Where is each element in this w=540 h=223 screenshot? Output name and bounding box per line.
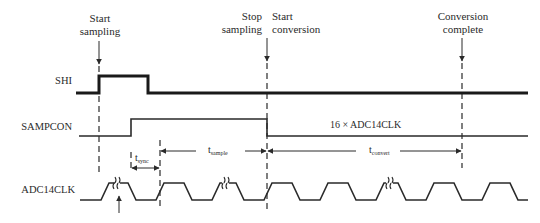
adc14clk-waveform <box>80 183 115 200</box>
t-sync-label: tsync <box>135 152 149 164</box>
stop-sampling-line1: Stop <box>242 10 263 22</box>
start-sampling-line2: sampling <box>80 25 121 37</box>
stop-sampling-line2: sampling <box>222 23 263 35</box>
conversion-complete-line2: complete <box>443 23 483 35</box>
t-convert-measure: tconvert <box>268 144 461 156</box>
adc14clk-waveform-seg4 <box>393 183 528 200</box>
annotation-conversion-complete: Conversion complete <box>438 10 489 61</box>
annotation-start-conversion: Start conversion <box>272 10 321 35</box>
annotation-start-sampling: Start sampling <box>80 12 121 64</box>
clock-break-icon <box>386 177 393 189</box>
start-conversion-line1: Start <box>272 10 293 22</box>
sampcon-note: 16 × ADC14CLK <box>330 119 402 130</box>
t-sample-measure: tsample <box>161 144 266 156</box>
start-sampling-line1: Start <box>90 12 111 24</box>
t-convert-label: tconvert <box>369 144 390 156</box>
signal-label-sampcon: SAMPCON <box>21 121 72 132</box>
t-sample-label: tsample <box>208 144 228 156</box>
adc14clk-waveform-seg2 <box>120 183 222 200</box>
annotation-stop-sampling: Stop sampling <box>222 10 267 61</box>
timing-diagram: Start sampling Stop sampling Start conve… <box>0 0 540 223</box>
conversion-complete-line1: Conversion <box>438 10 489 22</box>
adc14clk-waveform-seg3 <box>229 183 386 200</box>
start-conversion-line2: conversion <box>272 23 321 35</box>
shi-waveform <box>76 76 528 93</box>
t-sync-measure: tsync <box>132 152 159 168</box>
signal-label-shi: SHI <box>55 75 72 86</box>
sampcon-waveform <box>79 119 528 136</box>
signal-label-adc14clk: ADC14CLK <box>21 184 75 195</box>
clock-break-icon <box>222 177 229 189</box>
